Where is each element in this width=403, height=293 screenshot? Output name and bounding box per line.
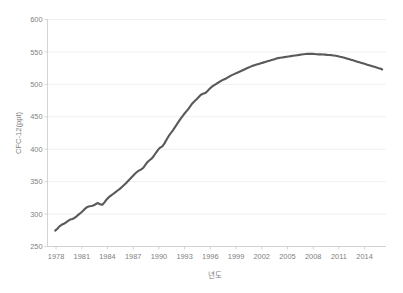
- x-tickmarks-group: [56, 247, 365, 250]
- y-tick-labels-group: 250300350400450500550600: [30, 15, 47, 251]
- x-tick-label-1993: 1993: [176, 252, 192, 261]
- y-tick-label-550: 550: [30, 48, 42, 57]
- y-tick-label-250: 250: [30, 242, 42, 251]
- x-tick-label-2002: 2002: [254, 252, 270, 261]
- y-tick-label-400: 400: [30, 145, 42, 154]
- gridlines-group: [48, 20, 387, 247]
- x-tick-label-1987: 1987: [125, 252, 141, 261]
- chart-container: 250300350400450500550600 197819811984198…: [0, 0, 403, 293]
- x-axis-title: 년도: [208, 270, 222, 280]
- data-series-group: [55, 54, 382, 231]
- x-tick-label-2011: 2011: [331, 252, 347, 261]
- x-tick-label-1981: 1981: [74, 252, 90, 261]
- x-tick-label-1999: 1999: [228, 252, 244, 261]
- data-line-CFC-12: [55, 54, 382, 231]
- x-tick-labels-group: 1978198119841987199019931996199920022005…: [48, 252, 373, 261]
- x-tick-label-1978: 1978: [48, 252, 64, 261]
- y-tick-label-300: 300: [30, 210, 42, 219]
- x-tick-label-2008: 2008: [305, 252, 321, 261]
- x-tick-label-2014: 2014: [356, 252, 372, 261]
- x-tick-label-1984: 1984: [99, 252, 115, 261]
- y-tick-label-500: 500: [30, 80, 42, 89]
- x-tick-label-1990: 1990: [151, 252, 167, 261]
- y-tick-label-350: 350: [30, 177, 42, 186]
- cfc12-line-chart: 250300350400450500550600 197819811984198…: [0, 0, 403, 293]
- x-tick-label-2005: 2005: [279, 252, 295, 261]
- x-tick-label-1996: 1996: [202, 252, 218, 261]
- y-tick-label-450: 450: [30, 112, 42, 121]
- y-tick-label-600: 600: [30, 15, 42, 24]
- y-axis-title: CFC-12(ppt): [14, 111, 23, 154]
